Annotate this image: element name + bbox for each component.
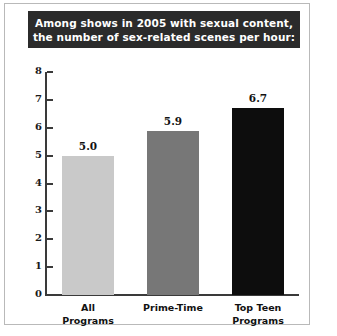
category-label-line: Programs — [220, 315, 296, 328]
y-axis-tick — [47, 99, 53, 101]
y-axis-tick — [47, 71, 53, 73]
bar — [62, 156, 114, 295]
bar-value-label: 5.9 — [147, 115, 199, 127]
y-axis-tick — [47, 266, 53, 268]
y-axis-tick — [47, 183, 53, 185]
y-axis-tick-label: 2 — [28, 232, 42, 243]
x-axis-category-label: Prime-Time — [135, 302, 211, 315]
category-label-line: Prime-Time — [135, 302, 211, 315]
plot-area: 012345678 5.05.96.7 AllProgramsPrime-Tim… — [0, 0, 337, 336]
bar — [147, 131, 199, 295]
y-axis-tick-label: 6 — [28, 121, 42, 132]
category-label-line: Programs — [50, 315, 126, 328]
y-axis-tick-label: 3 — [28, 204, 42, 215]
y-axis-tick — [47, 127, 53, 129]
x-axis-category-label: AllPrograms — [50, 302, 126, 327]
y-axis-tick — [47, 210, 53, 212]
y-axis-tick-label: 7 — [28, 93, 42, 104]
x-axis-category-label: Top TeenPrograms — [220, 302, 296, 327]
y-axis-tick-label: 5 — [28, 149, 42, 160]
y-axis-tick-label: 1 — [28, 260, 42, 271]
y-axis-tick-label: 8 — [28, 65, 42, 76]
y-axis-tick-label: 0 — [28, 288, 42, 299]
bar-value-label: 6.7 — [232, 92, 284, 104]
y-axis-tick-label: 4 — [28, 177, 42, 188]
bar-value-label: 5.0 — [62, 140, 114, 152]
y-axis-tick — [47, 238, 53, 240]
y-axis-tick — [47, 155, 53, 157]
bar — [232, 108, 284, 295]
category-label-line: All — [50, 302, 126, 315]
chart-screenshot: Among shows in 2005 with sexual content,… — [0, 0, 337, 336]
category-label-line: Top Teen — [220, 302, 296, 315]
y-axis-tick — [47, 294, 53, 296]
